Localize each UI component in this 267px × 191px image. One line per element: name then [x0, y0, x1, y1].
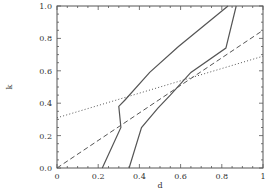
y-tick-label: 0.4 [39, 99, 52, 108]
x-tick-label: 0 [54, 172, 59, 181]
series-solid-left [102, 6, 228, 168]
x-tick-label: 0.2 [92, 172, 105, 181]
axes-frame [57, 6, 263, 168]
y-tick-label: 0.2 [39, 132, 52, 141]
x-axis-label: d [157, 181, 162, 190]
series-dashed [57, 30, 263, 168]
x-tick-label: 1 [260, 172, 265, 181]
y-axis-label: k [5, 84, 14, 89]
x-tick-label: 0.4 [133, 172, 146, 181]
y-tick-label: 0.0 [39, 164, 52, 173]
series-dotted [57, 56, 263, 118]
plot-lines [57, 6, 263, 168]
x-tick-labels: 00.20.40.60.81 [54, 172, 265, 181]
x-tick-label: 0.8 [215, 172, 228, 181]
series-solid-right [129, 6, 236, 168]
y-tick-label: 0.6 [39, 67, 52, 76]
y-tick-labels: 0.00.20.40.60.81.0 [39, 2, 52, 173]
axis-ticks [57, 6, 263, 168]
y-tick-label: 0.8 [39, 34, 52, 43]
y-tick-label: 1.0 [39, 2, 52, 11]
x-tick-label: 0.6 [174, 172, 187, 181]
chart: 00.20.40.60.81 0.00.20.40.60.81.0 d k [0, 0, 267, 191]
